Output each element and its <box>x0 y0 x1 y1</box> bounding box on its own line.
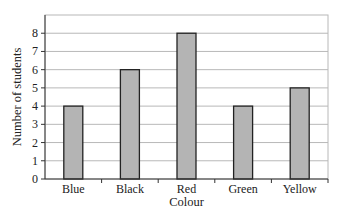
y-tick-label: 8 <box>32 26 38 40</box>
y-axis-ticks: 012345678 <box>32 26 45 186</box>
bar-black <box>120 70 139 179</box>
x-category-label: Black <box>116 182 144 196</box>
bar-green <box>234 106 253 179</box>
x-category-label: Blue <box>62 182 85 196</box>
y-tick-label: 4 <box>32 99 38 113</box>
y-tick-label: 2 <box>32 136 38 150</box>
y-tick-label: 6 <box>32 63 38 77</box>
x-category-label: Red <box>177 182 196 196</box>
bar-red <box>177 33 196 179</box>
y-tick-label: 3 <box>32 117 38 131</box>
y-tick-label: 5 <box>32 81 38 95</box>
y-tick-label: 0 <box>32 172 38 186</box>
bar-blue <box>64 106 83 179</box>
x-axis-title: Colour <box>169 195 205 209</box>
x-category-label: Yellow <box>283 182 317 196</box>
bar-chart: 012345678 BlueBlackRedGreenYellow Number… <box>0 0 343 212</box>
bar-yellow <box>290 88 309 179</box>
y-axis-title: Number of students <box>10 48 24 147</box>
x-axis-category-labels: BlueBlackRedGreenYellow <box>62 182 317 196</box>
y-tick-label: 7 <box>32 44 38 58</box>
y-tick-label: 1 <box>32 154 38 168</box>
x-category-label: Green <box>228 182 257 196</box>
